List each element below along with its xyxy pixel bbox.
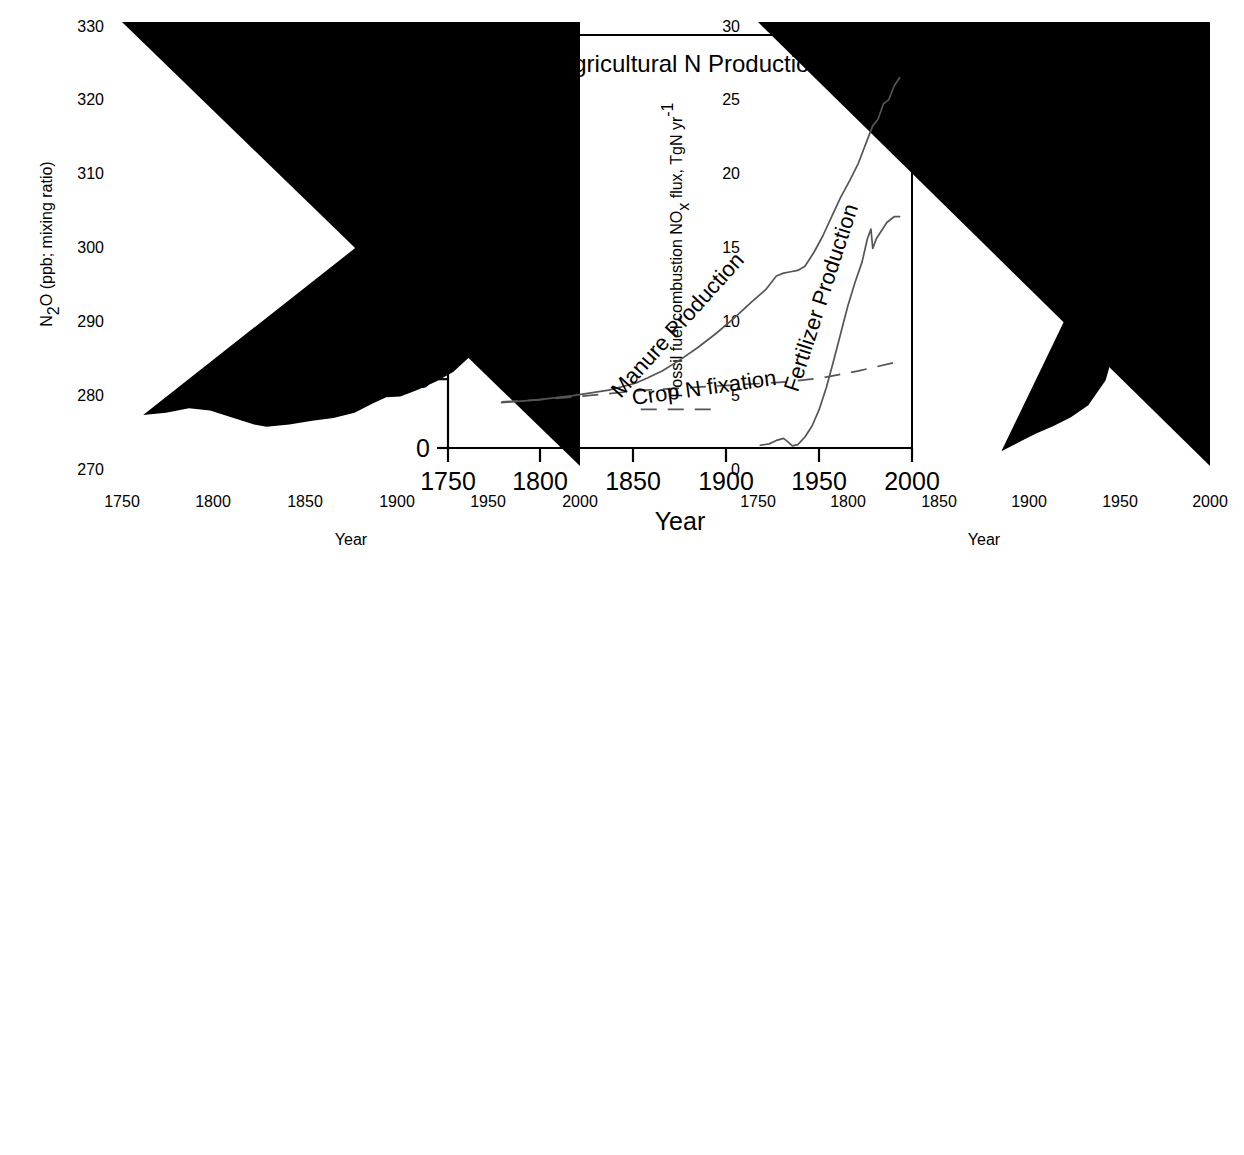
x-tick-1750: 1750 xyxy=(104,493,140,510)
y-tick-20: 20 xyxy=(402,159,430,187)
x-tick-1950: 1950 xyxy=(1102,493,1138,510)
nitrogen-cycle-figure: 270 280 290 300 310 320 330 1750 1800 xyxy=(0,0,1244,1155)
x-axis-ticks xyxy=(448,448,912,462)
x-axis-tick-labels: 1750 1800 1850 1900 1950 2000 xyxy=(420,467,940,495)
y-tick-270: 270 xyxy=(77,461,104,478)
x-tick-1850: 1850 xyxy=(605,467,661,495)
x-tick-2000: 2000 xyxy=(1192,493,1228,510)
y-axis-ticks xyxy=(437,35,448,448)
agricultural-chart-svg: 0 5 10 15 20 25 30 1750 1800 1850 190 xyxy=(300,0,980,570)
y-tick-300: 300 xyxy=(77,239,104,256)
panel-agricultural-n-production: 0 5 10 15 20 25 30 1750 1800 1850 190 xyxy=(300,0,980,574)
panel-title-pre: N xyxy=(268,56,280,73)
x-tick-1900: 1900 xyxy=(698,467,754,495)
y-tick-5: 5 xyxy=(416,365,430,393)
y-tick-290: 290 xyxy=(77,313,104,330)
x-axis-title: Year xyxy=(655,507,706,535)
y-axis-title-sub: 2 xyxy=(45,306,62,315)
x-tick-1800: 1800 xyxy=(195,493,231,510)
svg-text:N2O (ppb; mixing ratio): N2O (ppb; mixing ratio) xyxy=(38,161,62,326)
svg-text:TgN yr-1: TgN yr-1 xyxy=(348,195,377,285)
y-tick-330: 330 xyxy=(77,18,104,35)
y-axis-title: N2O (ppb; mixing ratio) xyxy=(38,161,62,326)
x-tick-1950: 1950 xyxy=(791,467,847,495)
panel-title: Agricultural N Production xyxy=(557,50,822,77)
y-tick-320: 320 xyxy=(77,91,104,108)
y-tick-10: 10 xyxy=(402,296,430,324)
x-tick-1900: 1900 xyxy=(1011,493,1047,510)
y-axis-title: TgN yr-1 xyxy=(348,195,377,285)
curve-label-crop-n-fixation-text: Crop N fixation xyxy=(630,365,778,410)
y-tick-25: 25 xyxy=(402,90,430,118)
y-tick-280: 280 xyxy=(77,387,104,404)
y-tick-0: 0 xyxy=(416,434,430,462)
y-tick-310: 310 xyxy=(77,165,104,182)
y-tick-30: 30 xyxy=(402,22,430,50)
curve-label-crop-n-fixation: Crop N fixation xyxy=(630,365,778,410)
y-axis-title-pre: TgN yr xyxy=(349,210,377,285)
y-axis-title-pre: N xyxy=(38,315,55,327)
x-tick-1800: 1800 xyxy=(512,467,568,495)
x-tick-1750: 1750 xyxy=(420,467,476,495)
y-axis-tick-labels: 270 280 290 300 310 320 330 xyxy=(77,18,104,478)
x-tick-2000: 2000 xyxy=(884,467,940,495)
y-axis-title-sup: -1 xyxy=(348,195,367,210)
y-tick-15: 15 xyxy=(402,227,430,255)
y-axis-ticks xyxy=(111,22,122,466)
y-axis-tick-labels: 0 5 10 15 20 25 30 xyxy=(402,22,430,462)
y-axis-title-post: O (ppb; mixing ratio) xyxy=(38,161,55,306)
panel-title-sub: 2 xyxy=(280,63,289,80)
